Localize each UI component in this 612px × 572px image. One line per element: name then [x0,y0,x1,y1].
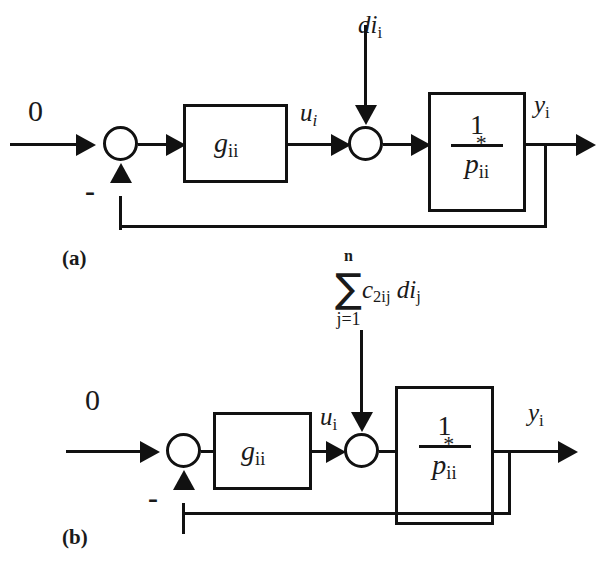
controller-block-b: gii [213,412,312,490]
input-arrowhead-a [76,134,96,156]
disturbance-arrowhead-a [355,105,377,125]
plant-denominator-star-a: * [476,133,487,155]
plant-denominator-star-b: * [443,434,454,456]
summing-junction-1-b [166,433,201,468]
reference-input-label-b: 0 [85,385,100,415]
controller-block-a: gii [183,104,288,183]
output-signal-sub-b: i [539,411,544,430]
controller-base-a: g [214,127,228,158]
control-signal-sub-b: i [333,415,338,434]
output-arrowhead-b [558,441,578,463]
plant-fraction-a: 1 *pii [431,111,523,181]
disturbance-sum-label-b: n∑j=1 c2ij dij [335,268,421,308]
caption-b: (b) [62,527,88,548]
feedback-minus-sign-b: - [148,489,158,507]
feedback-down-line-a [544,143,547,228]
disturbance-sub-a: i [377,23,382,42]
plant-block-a: 1 *pii [428,92,526,212]
disturbance-arrowhead-b [351,412,373,432]
caption-a: (a) [62,248,87,269]
output-signal-label-a: yi [534,92,550,121]
output-signal-label-b: yi [528,400,544,429]
feedback-horizontal-line-a [119,225,547,228]
control-signal-sub-a: i [313,111,318,130]
controller-block-label-b: gii [241,435,265,470]
feedback-minus-sign-a: - [85,182,95,200]
feedback-vertical-line-b [182,503,185,534]
output-signal-base-b: y [528,399,539,426]
summation-coefficient-base-b: c [362,276,373,303]
control-signal-base-b: u [320,403,333,430]
plant-block-b: 1 *pii [395,386,494,525]
input-line-a [10,143,78,146]
controller-to-junction-line-a [288,143,333,146]
control-signal-base-a: u [300,99,313,126]
controller-base-b: g [241,435,255,466]
summation-term-base-b: di [397,276,416,303]
summation-lower-limit-b: j=1 [336,310,360,328]
summation-upper-limit-b: n [344,248,353,264]
feedback-arrowhead-a [110,163,132,183]
summing-junction-2-b [344,433,379,468]
summation-sigma-glyph-b: ∑ [335,265,362,311]
disturbance-label-a: dii [358,12,382,41]
control-signal-label-a: ui [300,100,317,129]
feedback-horizontal-line-b [182,512,511,515]
plant-denominator-sub-b: ii [446,463,456,483]
summing-junction-1-a [103,126,138,161]
output-signal-sub-a: i [545,103,550,122]
reference-input-label-a: 0 [28,96,43,126]
disturbance-line-a [364,25,367,109]
plant-fraction-b: 1 *pii [398,412,491,482]
input-line-b [66,450,142,453]
feedback-down-line-b [508,450,511,515]
controller-sub-b: ii [255,449,265,469]
plant-denominator-sub-a: ii [479,162,489,182]
junction-to-plant-line-b [379,450,396,453]
disturbance-base-a: di [358,11,377,38]
output-arrowhead-a [576,134,596,156]
plant-denominator-a: *pii [465,150,489,181]
summing-junction-2-a [348,126,383,161]
junction2-input-arrowhead-b [326,441,346,463]
disturbance-line-b [360,330,363,416]
controller-block-label-a: gii [214,127,238,162]
summation-sigma-icon-b: n∑j=1 [335,268,362,308]
controller-sub-a: ii [228,141,238,161]
control-signal-label-b: ui [320,404,337,433]
feedback-arrowhead-b [173,470,195,490]
summation-coefficient-sub-b: 2ij [373,287,390,306]
output-signal-base-a: y [534,91,545,118]
block-diagram-figure: 0 - gii ui dii [0,0,612,572]
summation-term-sub-b: j [416,287,421,306]
input-arrowhead-b [140,441,160,463]
plant-output-line-b [494,450,562,453]
plant-denominator-b: *pii [432,451,456,482]
plant-output-line-a [526,143,578,146]
